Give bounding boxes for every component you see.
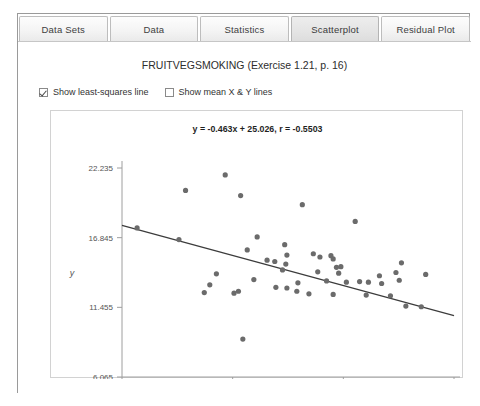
application-window: Data Sets Data Statistics Scatterplot Re… xyxy=(17,13,470,393)
tab-data-sets[interactable]: Data Sets xyxy=(19,16,108,42)
data-point xyxy=(336,271,341,276)
tab-label: Data xyxy=(143,24,164,35)
option-show-mean-lines[interactable]: Show mean X & Y lines xyxy=(165,87,273,97)
data-point xyxy=(183,188,188,193)
y-tick-label: 11.455 xyxy=(89,303,113,312)
data-point xyxy=(300,202,305,207)
data-point xyxy=(176,237,181,242)
data-point xyxy=(207,282,212,287)
tab-content-scatterplot: FRUITVEGSMOKING (Exercise 1.21, p. 16) S… xyxy=(18,41,471,394)
data-point xyxy=(357,279,362,284)
tab-label: Statistics xyxy=(224,24,264,35)
data-point xyxy=(423,272,428,277)
options-row: Show least-squares line Show mean X & Y … xyxy=(39,87,272,97)
checkbox-show-mean-lines[interactable] xyxy=(165,88,174,97)
y-axis-title: y xyxy=(69,268,75,278)
data-point xyxy=(240,336,245,341)
data-point xyxy=(317,254,322,259)
data-point xyxy=(364,293,369,298)
scatterplot-svg[interactable]: 6.06511.45516.84522.23515.61520.63825.66… xyxy=(51,111,464,379)
data-point xyxy=(379,281,384,286)
tab-label: Scatterplot xyxy=(311,24,359,35)
data-point xyxy=(403,304,408,309)
option-label: Show least-squares line xyxy=(53,87,149,97)
plot-panel: y = -0.463x + 25.026, r = -0.5503 6.0651… xyxy=(50,110,463,378)
data-point xyxy=(295,280,300,285)
data-point xyxy=(331,292,336,297)
data-point xyxy=(280,267,285,272)
data-point xyxy=(273,285,278,290)
data-point xyxy=(264,258,269,263)
tab-scatterplot[interactable]: Scatterplot xyxy=(291,16,380,42)
tab-strip: Data Sets Data Statistics Scatterplot Re… xyxy=(18,14,471,42)
data-point xyxy=(214,271,219,276)
data-point xyxy=(397,278,402,283)
data-point xyxy=(338,264,343,269)
data-point xyxy=(223,172,228,177)
plot-axes xyxy=(117,161,460,379)
data-point xyxy=(399,260,404,265)
page-title: FRUITVEGSMOKING (Exercise 1.21, p. 16) xyxy=(18,59,471,71)
data-point xyxy=(366,280,371,285)
data-point xyxy=(202,290,207,295)
data-point xyxy=(353,219,358,224)
data-point xyxy=(272,259,277,264)
y-tick-label: 16.845 xyxy=(89,234,114,243)
option-label: Show mean X & Y lines xyxy=(179,87,273,97)
data-point xyxy=(331,256,336,261)
data-point xyxy=(294,289,299,294)
least-squares-line xyxy=(122,225,454,315)
checkbox-show-least-squares-line[interactable] xyxy=(39,88,48,97)
data-point xyxy=(388,293,393,298)
y-tick-label: 22.235 xyxy=(89,164,114,173)
data-point xyxy=(284,252,289,257)
data-points xyxy=(134,172,428,341)
data-point xyxy=(284,285,289,290)
axis-tick-labels: 6.06511.45516.84522.23515.61520.63825.66… xyxy=(69,164,464,379)
data-point xyxy=(283,261,288,266)
data-point xyxy=(324,278,329,283)
y-tick-label: 6.065 xyxy=(93,373,114,379)
data-point xyxy=(311,251,316,256)
tab-residual-plot[interactable]: Residual Plot xyxy=(381,16,470,42)
data-point xyxy=(344,280,349,285)
data-point xyxy=(377,273,382,278)
data-point xyxy=(238,193,243,198)
tab-label: Residual Plot xyxy=(396,24,455,35)
data-point xyxy=(282,242,287,247)
option-show-least-squares-line[interactable]: Show least-squares line xyxy=(39,87,149,97)
data-point xyxy=(334,265,339,270)
tab-statistics[interactable]: Statistics xyxy=(200,16,289,42)
data-point xyxy=(231,291,236,296)
data-point xyxy=(419,304,424,309)
data-point xyxy=(245,247,250,252)
tab-data[interactable]: Data xyxy=(110,16,199,42)
tab-label: Data Sets xyxy=(42,24,86,35)
data-point xyxy=(393,270,398,275)
data-point xyxy=(134,225,139,230)
data-point xyxy=(315,269,320,274)
data-point xyxy=(251,277,256,282)
data-point xyxy=(255,234,260,239)
data-point xyxy=(306,291,311,296)
